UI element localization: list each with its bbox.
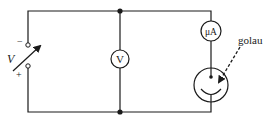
source-plus-terminal [26, 64, 30, 68]
circuit-diagram: V μA golau − + V [0, 0, 267, 120]
circuit-svg: V μA golau − + V [0, 0, 267, 120]
photocell [194, 68, 228, 102]
source-minus-terminal [26, 43, 30, 47]
source-minus-label: − [17, 36, 23, 47]
source-voltage-label: V [7, 52, 16, 66]
microammeter: μA [201, 21, 221, 41]
source-plus-label: + [16, 69, 22, 80]
voltmeter: V [111, 50, 129, 68]
voltmeter-label: V [116, 53, 124, 65]
microammeter-label: μA [205, 27, 217, 37]
photocell-anode-dot [209, 75, 213, 79]
light-label: golau [238, 34, 263, 46]
variable-voltage-source: − + V [7, 36, 40, 80]
